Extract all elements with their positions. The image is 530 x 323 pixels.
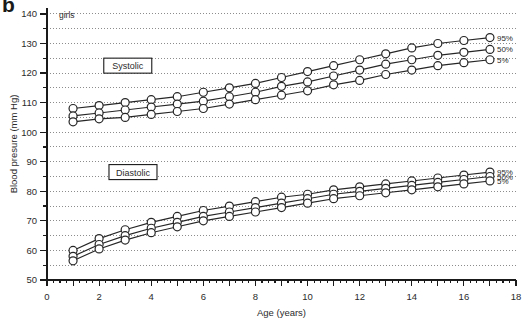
data-point	[356, 66, 364, 74]
y-tick-label: 120	[21, 67, 37, 78]
x-axis-title: Age (years)	[257, 307, 306, 318]
data-point	[486, 177, 494, 185]
series-label-systolic-5: 5%	[497, 56, 509, 65]
y-axis-title: Blood presure (mm Hg)	[8, 95, 19, 194]
data-point	[408, 56, 416, 64]
x-tick-label: 6	[201, 291, 206, 302]
data-point	[69, 118, 77, 126]
data-point	[486, 45, 494, 53]
y-tick-label: 50	[26, 274, 37, 285]
data-point	[356, 56, 364, 64]
data-point	[278, 73, 286, 81]
data-point	[121, 236, 129, 244]
x-tick-label: 4	[149, 291, 154, 302]
data-point	[199, 217, 207, 225]
group-label-girls: girls	[59, 10, 75, 20]
series-label-systolic-95: 95%	[497, 34, 513, 43]
data-point	[434, 51, 442, 59]
data-point	[199, 88, 207, 96]
y-tick-label: 90	[26, 156, 37, 167]
systolic-label-text: Systolic	[112, 61, 144, 71]
data-point	[408, 186, 416, 194]
data-point	[225, 212, 233, 220]
data-point	[460, 180, 468, 188]
diastolic-label-text: Diastolic	[116, 168, 151, 178]
y-tick-label: 70	[26, 215, 37, 226]
data-point	[121, 113, 129, 121]
y-tick-label: 110	[22, 97, 37, 108]
data-point	[147, 229, 155, 237]
x-tick-label: 2	[96, 291, 101, 302]
data-point	[330, 81, 338, 89]
data-point	[486, 34, 494, 42]
data-point	[225, 100, 233, 108]
x-tick-label: 8	[253, 291, 258, 302]
x-tick-label: 14	[406, 291, 417, 302]
data-point	[251, 96, 259, 104]
data-point	[382, 60, 390, 68]
series-label-systolic-50: 50%	[497, 45, 513, 54]
data-point	[69, 257, 77, 265]
data-point	[173, 107, 181, 115]
data-point	[199, 105, 207, 113]
series-label-diastolic-5: 5%	[497, 177, 509, 186]
data-point	[304, 87, 312, 95]
data-point	[95, 245, 103, 253]
data-point	[278, 82, 286, 90]
data-point	[356, 76, 364, 84]
data-point	[278, 91, 286, 99]
data-point	[251, 208, 259, 216]
data-point	[460, 48, 468, 56]
x-tick-label: 12	[354, 291, 365, 302]
data-point	[460, 59, 468, 67]
data-point	[225, 84, 233, 92]
x-tick-label: 16	[459, 291, 470, 302]
data-point	[147, 110, 155, 118]
data-point	[382, 50, 390, 58]
x-tick-label: 0	[44, 291, 49, 302]
x-tick-label: 18	[511, 291, 522, 302]
y-tick-label: 100	[21, 127, 37, 138]
data-point	[434, 183, 442, 191]
y-tick-label: 80	[26, 186, 37, 197]
data-point	[330, 195, 338, 203]
y-tick-label: 130	[21, 38, 37, 49]
y-tick-label: 60	[26, 245, 37, 256]
panel-letter: b	[2, 0, 14, 17]
y-tick-label: 140	[21, 8, 37, 19]
x-tick-label: 10	[302, 291, 313, 302]
data-point	[460, 37, 468, 45]
data-point	[330, 72, 338, 80]
data-point	[382, 71, 390, 79]
data-point	[304, 199, 312, 207]
data-point	[251, 79, 259, 87]
data-point	[408, 66, 416, 74]
data-point	[382, 189, 390, 197]
data-point	[95, 115, 103, 123]
data-point	[304, 78, 312, 86]
data-point	[356, 192, 364, 200]
data-point	[434, 39, 442, 47]
data-point	[408, 44, 416, 52]
blood-pressure-chart: 5060708090100110120130140024681012141618…	[0, 0, 530, 323]
data-point	[173, 223, 181, 231]
data-point	[330, 62, 338, 70]
data-point	[278, 204, 286, 212]
data-point	[486, 56, 494, 64]
data-point	[304, 68, 312, 76]
data-point	[434, 62, 442, 70]
